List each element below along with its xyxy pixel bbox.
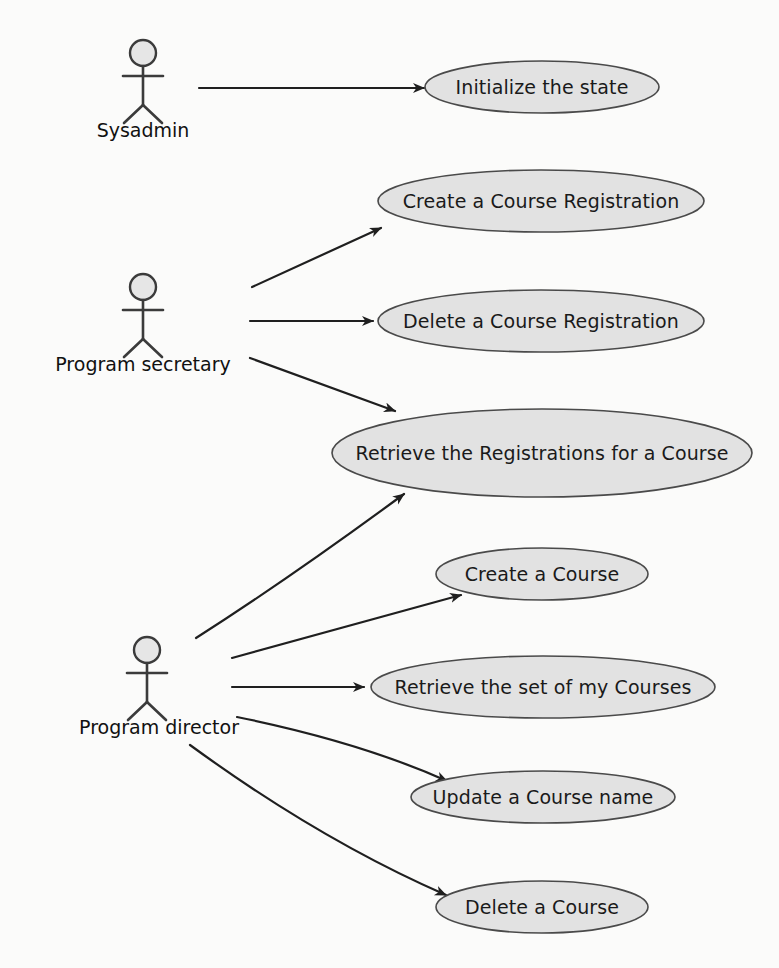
use-case-create-a-course[interactable]: Create a Course	[436, 548, 648, 600]
diagram-canvas: Initialize the stateCreate a Course Regi…	[0, 0, 779, 968]
use-case-diagram: Initialize the stateCreate a Course Regi…	[0, 0, 779, 968]
use-case-update-a-course-name[interactable]: Update a Course name	[411, 771, 675, 823]
actors-group: SysadminProgram secretaryProgram directo…	[55, 40, 239, 738]
use-cases-group: Initialize the stateCreate a Course Regi…	[332, 61, 752, 933]
use-case-label: Retrieve the set of my Courses	[395, 676, 692, 698]
use-case-label: Retrieve the Registrations for a Course	[355, 442, 728, 464]
use-case-initialize-the-state[interactable]: Initialize the state	[425, 61, 659, 113]
actor-sysadmin[interactable]: Sysadmin	[97, 40, 190, 141]
association-program-director-to-create-a-course	[232, 595, 461, 658]
actor-label: Program director	[79, 716, 239, 738]
use-case-label: Delete a Course	[465, 896, 619, 918]
use-case-label: Create a Course Registration	[403, 190, 680, 212]
use-case-delete-a-course[interactable]: Delete a Course	[436, 881, 648, 933]
association-program-director-to-delete-a-course	[190, 745, 446, 895]
actor-program-director[interactable]: Program director	[79, 637, 239, 738]
actor-label: Sysadmin	[97, 119, 190, 141]
use-case-label: Update a Course name	[433, 786, 654, 808]
association-program-secretary-to-create-a-course-registration	[252, 228, 381, 287]
actor-head-icon	[130, 40, 156, 66]
association-program-secretary-to-retrieve-the-registrations-for-a-course	[250, 358, 395, 411]
actor-head-icon	[134, 637, 160, 663]
use-case-retrieve-the-set-of-my-courses[interactable]: Retrieve the set of my Courses	[371, 656, 715, 718]
association-program-director-to-retrieve-the-registrations-for-a-course	[196, 494, 404, 638]
actor-label: Program secretary	[55, 353, 230, 375]
actor-head-icon	[130, 274, 156, 300]
use-case-create-a-course-registration[interactable]: Create a Course Registration	[378, 170, 704, 232]
actor-program-secretary[interactable]: Program secretary	[55, 274, 230, 375]
use-case-delete-a-course-registration[interactable]: Delete a Course Registration	[378, 290, 704, 352]
use-case-retrieve-the-registrations-for-a-course[interactable]: Retrieve the Registrations for a Course	[332, 409, 752, 497]
association-program-director-to-update-a-course-name	[237, 717, 447, 781]
use-case-label: Delete a Course Registration	[403, 310, 679, 332]
use-case-label: Create a Course	[465, 563, 620, 585]
use-case-label: Initialize the state	[456, 76, 629, 98]
